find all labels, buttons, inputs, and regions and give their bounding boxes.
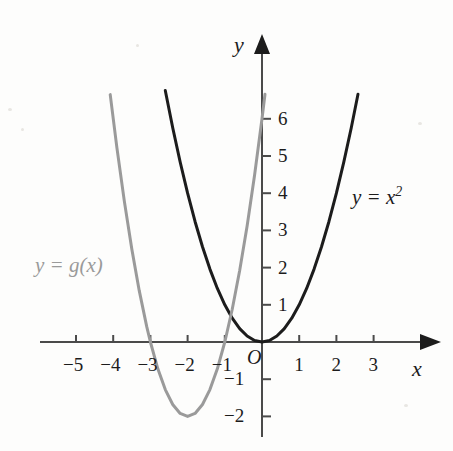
- y-tick-label: 1: [278, 295, 288, 314]
- y-tick-label: 6: [278, 109, 288, 128]
- x-tick-label: 2: [331, 355, 341, 374]
- x-axis-label: x: [412, 358, 422, 380]
- x-tick-label: 1: [294, 355, 304, 374]
- paper-speck: [21, 128, 24, 131]
- curve-label-base-text: y = x: [352, 185, 395, 209]
- paper-speck: [404, 404, 408, 407]
- paper-speck: [8, 108, 12, 111]
- x-tick-label: −2: [175, 355, 195, 374]
- x-tick-label: −5: [63, 355, 83, 374]
- paper-speck: [136, 44, 139, 47]
- origin-label: O: [247, 347, 261, 367]
- y-axis-arrow-icon: [254, 34, 270, 54]
- y-tick-label: 3: [278, 220, 288, 239]
- y-tick-label: 5: [278, 146, 288, 165]
- y-tick-label: 4: [278, 183, 288, 202]
- y-tick-label: −1: [224, 369, 244, 388]
- y-tick-label: 2: [278, 258, 288, 277]
- x-tick-label: −3: [137, 355, 157, 374]
- x-tick-label: 3: [369, 355, 379, 374]
- graph-figure: −5−4−3−2−1123−2−1123456 x y O y = x2 y =…: [0, 0, 453, 451]
- paper-speck: [418, 122, 422, 125]
- y-tick-label: −2: [224, 406, 244, 425]
- y-axis-label: y: [234, 34, 244, 56]
- x-tick-label: −4: [100, 355, 120, 374]
- curve-label-y-equals-x-squared: y = x2: [352, 185, 402, 208]
- x-axis-arrow-icon: [420, 334, 441, 350]
- curve-label-exponent: 2: [395, 184, 402, 199]
- curve-label-y-equals-g-of-x: y = g(x): [35, 255, 103, 276]
